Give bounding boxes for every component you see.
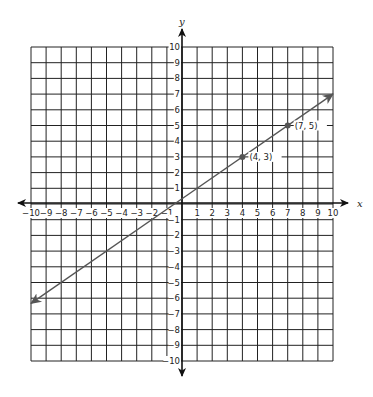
point-label: (7, 5)	[295, 121, 318, 131]
y-tick-label: −9	[167, 340, 180, 350]
x-tick-label: 10	[328, 208, 339, 218]
x-tick-label: 1	[194, 208, 199, 218]
x-tick-label: 2	[209, 208, 214, 218]
y-tick-label: −8	[167, 325, 180, 335]
x-tick-label: −8	[55, 208, 68, 218]
y-tick-label: −6	[167, 293, 180, 303]
x-tick-label: 6	[270, 208, 275, 218]
y-tick-label: 1	[175, 183, 180, 193]
x-tick-label: 4	[240, 208, 245, 218]
x-tick-label: −7	[70, 208, 83, 218]
x-tick-label: 8	[300, 208, 305, 218]
x-tick-label: −3	[130, 208, 143, 218]
y-tick-label: 3	[175, 152, 180, 162]
x-tick-label: 9	[315, 208, 320, 218]
coordinate-plane: xy−10−9−8−7−6−5−4−3−2−112345678910109876…	[0, 0, 373, 397]
x-tick-label: 7	[285, 208, 290, 218]
data-point	[239, 154, 245, 160]
point-label: (4, 3)	[249, 152, 272, 162]
y-axis-label: y	[178, 16, 185, 27]
y-tick-label: 10	[169, 42, 180, 52]
y-tick-label: 6	[175, 105, 180, 115]
x-tick-label: −9	[40, 208, 53, 218]
x-tick-label: −4	[115, 208, 128, 218]
y-tick-label: 2	[175, 168, 180, 178]
x-tick-label: 3	[225, 208, 230, 218]
y-tick-label: 8	[175, 73, 180, 83]
x-tick-label: −5	[100, 208, 113, 218]
y-tick-label: −2	[167, 230, 180, 240]
x-tick-label: 5	[255, 208, 260, 218]
y-tick-label: −3	[167, 246, 180, 256]
y-tick-label: 7	[175, 89, 180, 99]
y-tick-label: −4	[167, 262, 180, 272]
x-tick-label: −6	[85, 208, 98, 218]
y-tick-label: −1	[167, 215, 180, 225]
data-point	[285, 123, 291, 129]
y-tick-label: 4	[175, 136, 180, 146]
y-tick-label: 9	[175, 58, 180, 68]
y-tick-label: 5	[175, 121, 180, 131]
y-tick-label: −5	[167, 278, 180, 288]
x-tick-label: −10	[22, 208, 40, 218]
y-tick-label: −10	[162, 356, 180, 366]
x-axis-label: x	[357, 198, 363, 209]
y-tick-label: −7	[167, 309, 180, 319]
